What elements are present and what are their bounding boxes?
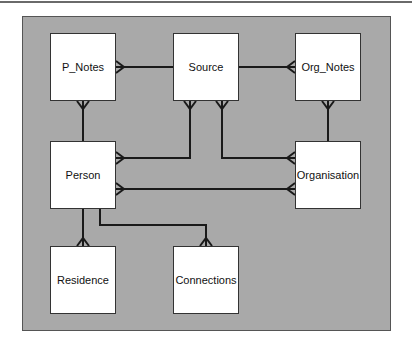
link-source-organisation <box>216 101 295 164</box>
entity-label: Residence <box>57 274 109 286</box>
entity-label: Organisation <box>297 169 359 181</box>
link-source-orgnotes <box>239 61 295 73</box>
link-source-pnotes <box>116 61 173 73</box>
entity-label: Org_Notes <box>301 61 354 73</box>
entity-source[interactable]: Source <box>173 33 239 101</box>
entity-label: Person <box>66 169 101 181</box>
entity-person[interactable]: Person <box>50 141 116 209</box>
entity-connections[interactable]: Connections <box>173 246 239 314</box>
link-person-residence <box>77 209 89 246</box>
link-person-pnotes <box>77 101 89 141</box>
link-person-organisation <box>116 183 295 195</box>
link-person-connections <box>100 209 212 246</box>
link-orgnotes-organisation <box>322 101 334 141</box>
entity-label: P_Notes <box>62 61 104 73</box>
link-source-person <box>116 101 196 164</box>
entity-label: Source <box>189 61 224 73</box>
entity-residence[interactable]: Residence <box>50 246 116 314</box>
entity-p-notes[interactable]: P_Notes <box>50 33 116 101</box>
entity-org-notes[interactable]: Org_Notes <box>295 33 361 101</box>
entity-organisation[interactable]: Organisation <box>295 141 361 209</box>
entity-label: Connections <box>175 274 236 286</box>
